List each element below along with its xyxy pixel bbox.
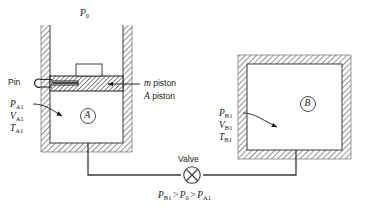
state-a-temperature-label: TA1 [10, 124, 23, 134]
tank-b-walls [238, 55, 351, 159]
piston-mass-label: m piston [144, 79, 176, 89]
valve-label: Valve [178, 155, 199, 164]
pressure-relation-equation: PB1>P0>PA1 [158, 190, 211, 200]
chamber-b-letter: B [305, 99, 311, 109]
state-b-pressure-label: PB1 [219, 109, 232, 119]
piston-area-label: A piston [144, 92, 175, 102]
valve-cross-circle-icon[interactable] [184, 167, 200, 183]
chamber-a-letter: A [85, 111, 91, 121]
state-b-volume-label: VB1 [219, 121, 232, 131]
state-b-temperature-label: TB1 [219, 133, 232, 143]
state-b-leader-arrow [243, 113, 277, 127]
state-a-volume-label: VA1 [10, 112, 24, 122]
pin-label: Pin [8, 78, 20, 87]
figure-root: P0 Pin m piston A piston PA1 VA1 TA1 A P… [0, 0, 365, 214]
state-a-pressure-label: PA1 [10, 100, 24, 110]
ambient-pressure-label: P0 [80, 9, 89, 19]
